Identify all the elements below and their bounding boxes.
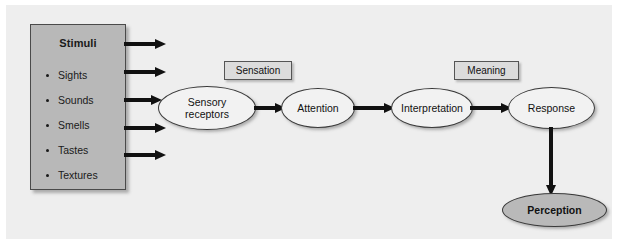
- stage-label-meaning: Meaning: [454, 61, 519, 80]
- node-label-line1: Attention: [297, 102, 338, 114]
- node-sensory-receptors: Sensory receptors: [158, 86, 256, 130]
- stimuli-title: Stimuli: [31, 37, 125, 49]
- perception-diagram: Stimuli Sights Sounds Smells Tastes Text…: [0, 0, 618, 244]
- stage-label-text: Meaning: [467, 65, 505, 76]
- node-label-line1: Sensory: [185, 96, 229, 108]
- node-perception: Perception: [502, 193, 607, 227]
- stimuli-box: Stimuli Sights Sounds Smells Tastes Text…: [30, 24, 126, 190]
- diagram-canvas: Stimuli Sights Sounds Smells Tastes Text…: [6, 5, 612, 239]
- list-item: Tastes: [45, 138, 98, 163]
- stage-label-sensation: Sensation: [224, 61, 292, 80]
- node-attention: Attention: [281, 88, 355, 128]
- list-item: Sounds: [45, 88, 98, 113]
- list-item: Textures: [45, 163, 98, 188]
- node-label-line1: Interpretation: [401, 102, 463, 114]
- node-label-line1: Perception: [527, 204, 581, 216]
- stage-label-text: Sensation: [236, 65, 280, 76]
- list-item: Sights: [45, 63, 98, 88]
- stimuli-list: Sights Sounds Smells Tastes Textures: [45, 63, 98, 188]
- node-interpretation: Interpretation: [391, 88, 473, 128]
- node-response: Response: [508, 87, 595, 129]
- node-label-line1: Response: [528, 102, 575, 114]
- list-item: Smells: [45, 113, 98, 138]
- node-label-line2: receptors: [185, 108, 229, 120]
- vertical-arrow-shaft-icon: [549, 127, 553, 187]
